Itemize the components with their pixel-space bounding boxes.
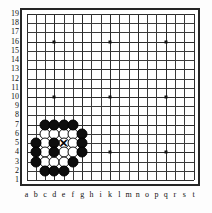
star-point (53, 40, 56, 43)
row-label: 13 (1, 65, 19, 73)
grid-line-vertical (147, 14, 148, 180)
row-label: 12 (1, 75, 19, 83)
star-point (53, 96, 56, 99)
grid-line-vertical (156, 14, 157, 180)
grid-line-horizontal (27, 180, 194, 181)
row-label: 1 (1, 176, 19, 184)
grid-line-vertical (129, 14, 130, 180)
go-board-grid: ✕ (22, 10, 198, 184)
column-label-axis: abcdefghiklmnopqrst (20, 190, 200, 204)
go-board[interactable]: ✕ (20, 8, 200, 186)
star-point (109, 40, 112, 43)
row-label: 3 (1, 158, 19, 166)
star-point (164, 40, 167, 43)
grid-line-vertical (119, 14, 120, 180)
row-label: 19 (1, 10, 19, 18)
row-label: 18 (1, 19, 19, 27)
column-label: t (189, 190, 199, 200)
row-label: 11 (1, 84, 19, 92)
row-label: 7 (1, 121, 19, 129)
black-stone[interactable] (58, 165, 69, 176)
star-point (109, 151, 112, 154)
row-label: 4 (1, 148, 19, 156)
grid-line-horizontal (27, 106, 194, 107)
black-stone[interactable] (67, 156, 78, 167)
row-label: 17 (1, 28, 19, 36)
grid-line-vertical (194, 14, 195, 180)
row-label: 14 (1, 56, 19, 64)
row-label: 8 (1, 111, 19, 119)
grid-line-horizontal (27, 115, 194, 116)
star-point (109, 96, 112, 99)
row-label: 10 (1, 93, 19, 101)
grid-line-vertical (184, 14, 185, 180)
row-label: 15 (1, 47, 19, 55)
row-label: 5 (1, 139, 19, 147)
black-stone[interactable] (49, 147, 60, 158)
black-stone[interactable] (67, 119, 78, 130)
go-diagram: 19181716151413121110987654321 ✕ abcdefgh… (0, 0, 212, 213)
grid-line-vertical (175, 14, 176, 180)
grid-line-vertical (138, 14, 139, 180)
row-label-axis: 19181716151413121110987654321 (0, 8, 19, 186)
row-label: 6 (1, 130, 19, 138)
black-stone[interactable] (77, 147, 88, 158)
row-label: 16 (1, 38, 19, 46)
row-label: 2 (1, 167, 19, 175)
row-label: 9 (1, 102, 19, 110)
star-point (164, 96, 167, 99)
black-stone[interactable] (30, 156, 41, 167)
star-point (164, 151, 167, 154)
